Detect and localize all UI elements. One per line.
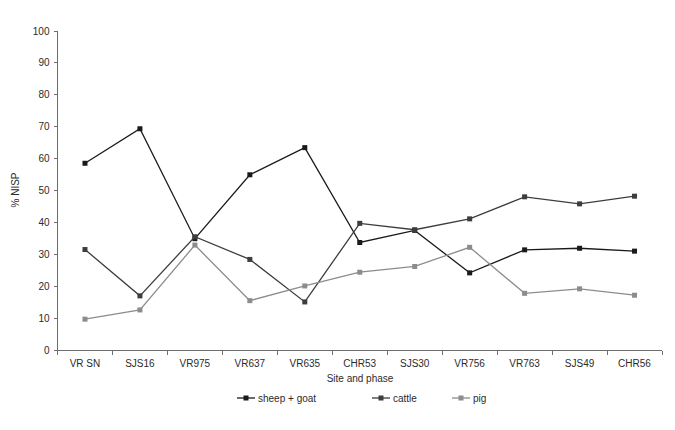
- y-tick-label: 50: [38, 185, 50, 196]
- data-point-marker: [412, 264, 417, 269]
- data-point-marker: [302, 283, 307, 288]
- data-point-marker: [82, 247, 87, 252]
- data-point-marker: [467, 245, 472, 250]
- data-point-marker: [357, 240, 362, 245]
- y-tick-label: 20: [38, 281, 50, 292]
- y-tick-label: 80: [38, 89, 50, 100]
- data-point-marker: [192, 243, 197, 248]
- data-point-marker: [467, 216, 472, 221]
- data-point-marker: [137, 307, 142, 312]
- data-point-marker: [82, 161, 87, 166]
- legend-swatch-marker: [244, 396, 249, 401]
- line-chart: 0102030405060708090100 VR SNSJS16VR975VR…: [0, 0, 675, 430]
- x-tick-label: VR975: [180, 358, 211, 369]
- data-point-marker: [632, 249, 637, 254]
- y-tick-label: 40: [38, 217, 50, 228]
- data-point-marker: [137, 126, 142, 131]
- data-point-marker: [302, 145, 307, 150]
- legend-label: cattle: [393, 393, 417, 404]
- legend-label: pig: [473, 393, 486, 404]
- x-tick-label: VR635: [290, 358, 321, 369]
- legend-swatch-marker: [459, 396, 464, 401]
- data-point-marker: [577, 246, 582, 251]
- data-point-marker: [302, 299, 307, 304]
- data-point-marker: [632, 194, 637, 199]
- x-axis-title: Site and phase: [327, 373, 394, 384]
- y-tick-label: 10: [38, 313, 50, 324]
- data-point-marker: [247, 172, 252, 177]
- y-tick-label: 30: [38, 249, 50, 260]
- data-point-marker: [577, 201, 582, 206]
- data-point-marker: [82, 317, 87, 322]
- y-tick-label: 90: [38, 57, 50, 68]
- y-tick-label: 100: [33, 26, 50, 37]
- x-tick-label: CHR56: [618, 358, 651, 369]
- x-tick-label: VR SN: [70, 358, 101, 369]
- data-point-marker: [247, 257, 252, 262]
- x-tick-label: SJS16: [125, 358, 155, 369]
- y-tick-label: 0: [44, 345, 50, 356]
- data-point-marker: [577, 286, 582, 291]
- x-tick-label: CHR53: [343, 358, 376, 369]
- x-tick-label: VR637: [235, 358, 266, 369]
- y-tick-label: 70: [38, 121, 50, 132]
- data-point-marker: [412, 227, 417, 232]
- data-point-marker: [522, 194, 527, 199]
- data-point-marker: [357, 270, 362, 275]
- data-point-marker: [467, 270, 472, 275]
- data-point-marker: [522, 247, 527, 252]
- chart-container: 0102030405060708090100 VR SNSJS16VR975VR…: [0, 0, 675, 430]
- x-tick-label: VR763: [509, 358, 540, 369]
- y-axis-title: % NISP: [10, 172, 21, 207]
- x-tick-label: VR756: [454, 358, 485, 369]
- y-tick-label: 60: [38, 153, 50, 164]
- x-tick-label: SJS30: [400, 358, 430, 369]
- data-point-marker: [522, 291, 527, 296]
- data-point-marker: [357, 221, 362, 226]
- legend-label: sheep + goat: [258, 393, 316, 404]
- legend-swatch-marker: [379, 396, 384, 401]
- data-point-marker: [247, 298, 252, 303]
- data-point-marker: [137, 293, 142, 298]
- data-point-marker: [192, 234, 197, 239]
- data-point-marker: [632, 293, 637, 298]
- x-tick-label: SJS49: [565, 358, 595, 369]
